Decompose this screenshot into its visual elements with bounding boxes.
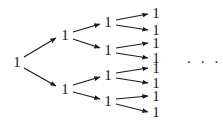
tree-node-n14: 1 (152, 105, 160, 120)
tree-edge (116, 53, 148, 58)
tree-edge (73, 24, 100, 32)
tree-edge (116, 78, 148, 83)
tree-edge (116, 43, 148, 48)
tree-edge (73, 92, 100, 99)
tree-edge (116, 68, 148, 73)
tree-node-n11: 1 (152, 61, 160, 76)
tree-edge (73, 39, 100, 48)
tree-node-n3: 1 (104, 15, 112, 30)
edge-group (24, 14, 148, 112)
tree-node-n9: 1 (152, 36, 160, 51)
tree-edge (24, 68, 56, 86)
tree-node-n1: 1 (61, 28, 69, 43)
tree-node-n5: 1 (104, 68, 112, 83)
tree-node-n6: 1 (104, 94, 112, 109)
tree-edge (116, 14, 148, 20)
tree-edge (73, 77, 100, 85)
tree-node-n0: 1 (13, 55, 21, 70)
tree-node-n13: 1 (152, 89, 160, 104)
tree-node-n7: 1 (152, 6, 160, 21)
continuation-ellipsis: · · · (187, 55, 222, 70)
binary-tree-diagram: 111111111111111 · · · (0, 0, 223, 121)
tree-edge (116, 104, 148, 112)
tree-node-n4: 1 (104, 43, 112, 58)
tree-edge (116, 25, 148, 30)
tree-edge (24, 38, 56, 57)
tree-edge (116, 96, 148, 99)
tree-node-n2: 1 (61, 82, 69, 97)
